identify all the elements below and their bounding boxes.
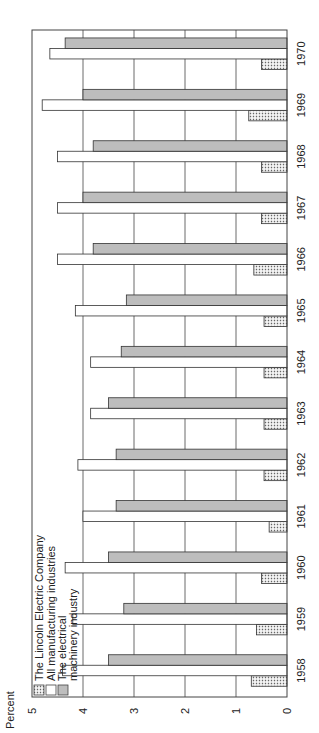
bar-lincoln — [262, 59, 288, 70]
bar-lincoln — [269, 522, 287, 533]
bar-all-manufacturing — [75, 305, 287, 316]
bar-lincoln — [262, 162, 288, 173]
y-tick-label: 2 — [179, 708, 191, 714]
bar-lincoln — [249, 110, 287, 121]
bar-electrical-machinery — [93, 141, 287, 152]
bar-electrical-machinery — [65, 38, 287, 49]
legend-label-electrical-machinery-2: machinery industry — [67, 588, 79, 681]
legend-swatch-electrical-machinery — [58, 685, 68, 695]
bar-all-manufacturing — [58, 254, 288, 265]
x-tick-label: 1960 — [295, 555, 307, 579]
y-tick-label: 0 — [281, 708, 293, 714]
bar-lincoln — [264, 367, 287, 378]
bar-lincoln — [251, 676, 287, 687]
x-tick-label: 1966 — [295, 247, 307, 271]
y-tick-label: 5 — [26, 708, 38, 714]
bar-all-manufacturing — [58, 203, 288, 214]
x-tick-label: 1965 — [295, 298, 307, 322]
rotated-chart-container: 012345 195819591960196119621963196419651… — [0, 0, 319, 733]
y-tick-label: 4 — [77, 708, 89, 714]
legend-label-lincoln: The Lincoln Electric Company — [33, 534, 45, 681]
bar-all-manufacturing — [63, 665, 287, 676]
x-tick-label: 1967 — [295, 196, 307, 220]
y-tick-label: 3 — [128, 708, 140, 714]
bar-lincoln — [254, 265, 287, 276]
x-tick-label: 1959 — [295, 607, 307, 631]
bar-lincoln — [262, 573, 288, 584]
bar-all-manufacturing — [50, 48, 287, 59]
bar-all-manufacturing — [42, 100, 287, 111]
legend: The Lincoln Electric Company All manufac… — [33, 534, 79, 695]
bar-electrical-machinery — [116, 501, 287, 512]
bar-electrical-machinery — [109, 552, 288, 563]
bar-lincoln — [262, 213, 288, 223]
x-tick-label: 1963 — [295, 401, 307, 425]
bar-electrical-machinery — [83, 89, 287, 100]
y-axis-ticks: 012345 — [26, 708, 293, 714]
legend-swatch-all-manufacturing — [46, 685, 56, 695]
bar-lincoln — [264, 316, 287, 327]
bar-electrical-machinery — [93, 244, 287, 255]
x-tick-label: 1958 — [295, 658, 307, 682]
x-tick-label: 1964 — [295, 350, 307, 374]
bar-all-manufacturing — [78, 460, 287, 471]
bar-lincoln — [264, 470, 287, 481]
bar-electrical-machinery — [121, 346, 287, 357]
bar-all-manufacturing — [83, 511, 287, 522]
x-tick-label: 1962 — [295, 453, 307, 477]
y-axis-label: Percent — [4, 691, 16, 729]
bar-lincoln — [264, 419, 287, 430]
bar-electrical-machinery — [83, 192, 287, 203]
bar-chart: 012345 195819591960196119621963196419651… — [0, 0, 319, 733]
bar-electrical-machinery — [124, 603, 287, 614]
x-tick-label: 1970 — [295, 41, 307, 65]
legend-swatch-lincoln — [34, 685, 44, 695]
y-tick-label: 1 — [230, 708, 242, 714]
bar-lincoln — [256, 624, 287, 635]
bar-electrical-machinery — [126, 295, 287, 306]
x-tick-label: 1968 — [295, 144, 307, 168]
x-tick-label: 1961 — [295, 504, 307, 528]
bar-all-manufacturing — [91, 408, 287, 419]
bar-all-manufacturing — [58, 151, 288, 162]
x-axis-labels: 1958195919601961196219631964196519661967… — [295, 41, 307, 682]
bar-all-manufacturing — [73, 614, 287, 625]
bar-all-manufacturing — [91, 357, 287, 368]
bar-all-manufacturing — [65, 562, 287, 573]
bar-electrical-machinery — [109, 398, 288, 409]
bar-electrical-machinery — [116, 449, 287, 460]
bar-electrical-machinery — [109, 655, 288, 666]
x-tick-label: 1969 — [295, 93, 307, 117]
